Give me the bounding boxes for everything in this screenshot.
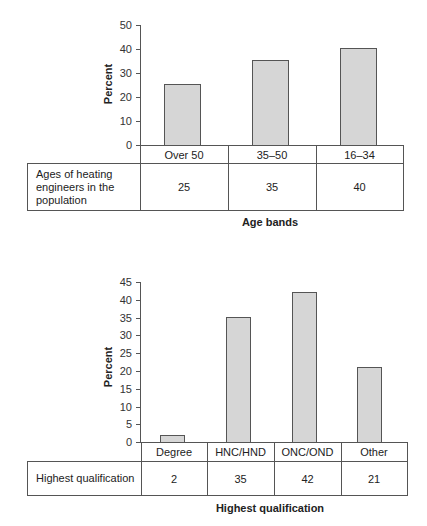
- y-tick: [136, 97, 140, 98]
- y-tick-label: 10: [108, 115, 132, 127]
- y-tick: [136, 389, 140, 390]
- y-tick: [136, 25, 140, 26]
- y-tick: [136, 121, 140, 122]
- y-tick-label: 35: [108, 312, 132, 324]
- y-tick-label: 20: [108, 91, 132, 103]
- table-value: 21: [341, 462, 407, 496]
- category-label: 35–50: [228, 146, 316, 164]
- y-axis-label: Percent: [102, 54, 114, 114]
- table-value: 35: [228, 164, 316, 211]
- table-value: 40: [316, 164, 403, 211]
- table-row-label: Highest qualification: [28, 462, 142, 496]
- y-tick: [136, 282, 140, 283]
- y-axis-line: [140, 25, 141, 146]
- y-tick: [136, 49, 140, 50]
- bar-other: [357, 367, 382, 443]
- y-tick: [136, 300, 140, 301]
- bar-hnc-hnd: [226, 317, 251, 443]
- y-tick: [136, 353, 140, 354]
- y-tick-label: 25: [108, 347, 132, 359]
- y-tick: [136, 407, 140, 408]
- age-data-table: Over 50 35–50 16–34 Ages of heating engi…: [27, 145, 404, 211]
- category-label: Degree: [141, 443, 207, 462]
- bar-16-34: [340, 48, 377, 146]
- y-tick: [136, 371, 140, 372]
- table-row-label: Ages of heating engineers in the populat…: [28, 164, 141, 211]
- qualification-data-table: Degree HNC/HND ONC/OND Other Highest qua…: [27, 442, 408, 496]
- bar-35-50: [252, 60, 289, 146]
- y-tick: [136, 318, 140, 319]
- x-axis-title: Highest qualification: [190, 502, 350, 514]
- bar-onc-ond: [292, 292, 317, 443]
- y-axis-line: [140, 282, 141, 443]
- category-label: Over 50: [140, 146, 228, 164]
- y-tick-label: 45: [108, 276, 132, 288]
- y-tick: [136, 424, 140, 425]
- table-value: 42: [274, 462, 341, 496]
- bar-over-50: [164, 84, 201, 146]
- y-tick-label: 40: [108, 294, 132, 306]
- y-tick: [136, 335, 140, 336]
- category-label: HNC/HND: [207, 443, 274, 462]
- y-tick-label: 10: [108, 401, 132, 413]
- y-tick-label: 30: [108, 329, 132, 341]
- y-tick-label: 30: [108, 67, 132, 79]
- category-label: 16–34: [316, 146, 403, 164]
- category-label: ONC/OND: [274, 443, 341, 462]
- y-tick-label: 50: [108, 19, 132, 31]
- y-tick-label: 40: [108, 43, 132, 55]
- y-tick-label: 15: [108, 383, 132, 395]
- y-tick: [136, 73, 140, 74]
- x-axis-title: Age bands: [200, 216, 340, 228]
- table-value: 25: [140, 164, 228, 211]
- y-tick-label: 5: [108, 418, 132, 430]
- table-value: 2: [141, 462, 207, 496]
- y-tick-label: 20: [108, 365, 132, 377]
- category-label: Other: [341, 443, 407, 462]
- table-value: 35: [207, 462, 274, 496]
